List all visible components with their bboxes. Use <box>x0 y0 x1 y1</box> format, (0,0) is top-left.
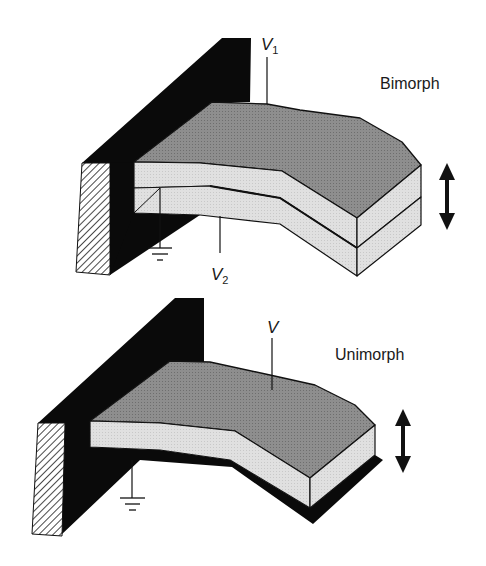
v2-label: V2 <box>211 265 228 286</box>
v1-label: V1 <box>261 35 278 56</box>
unimorph-motion-arrow-icon <box>395 409 411 473</box>
unimorph-title: Unimorph <box>335 346 404 363</box>
bimorph-title: Bimorph <box>380 75 440 92</box>
bimorph-figure: V1 V2 Bimorph <box>76 35 455 286</box>
ground-icon <box>148 248 172 260</box>
wall-hatched-face <box>32 423 65 536</box>
unimorph-figure: V Unimorph <box>32 298 411 536</box>
wall-hatched-face <box>76 163 110 275</box>
ground-icon <box>120 498 145 510</box>
v-label: V <box>267 318 280 337</box>
piezo-actuator-diagram: V1 V2 Bimorph <box>0 0 486 566</box>
bimorph-motion-arrow-icon <box>439 163 455 230</box>
